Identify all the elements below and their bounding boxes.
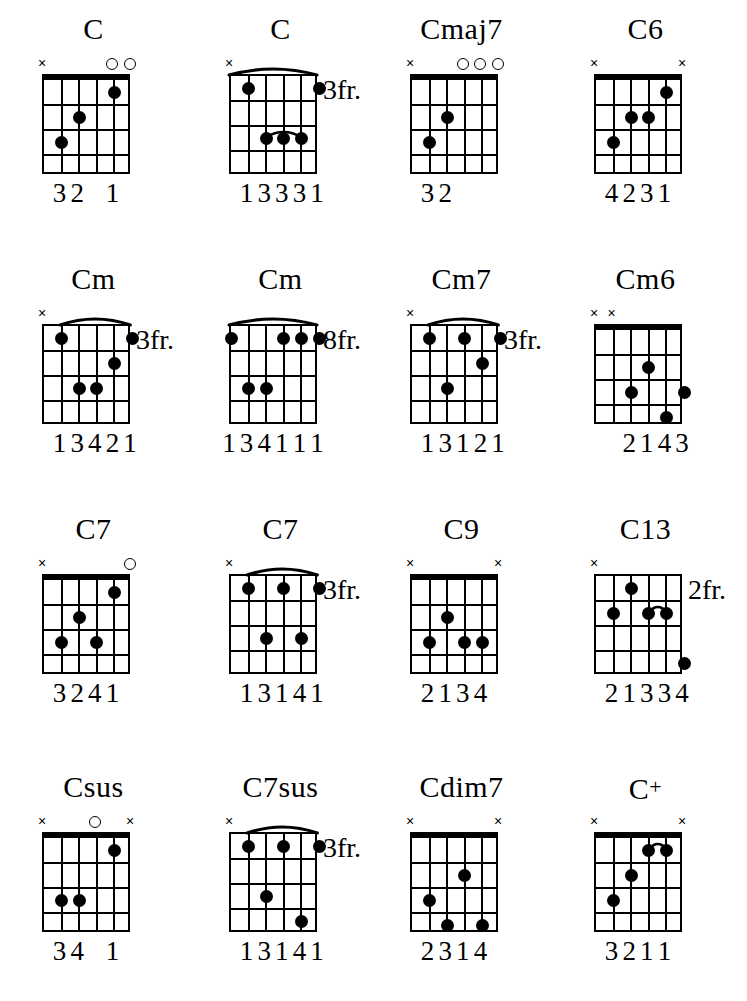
string-line (429, 580, 431, 672)
open-string-icon (106, 58, 118, 70)
muted-string-icon (587, 56, 601, 70)
fret-line (596, 887, 680, 889)
finger-dot (73, 111, 86, 124)
fret-line (596, 354, 680, 356)
string-line (96, 80, 98, 172)
finger-dot (642, 607, 655, 620)
finger-dot (607, 607, 620, 620)
fret-line (231, 400, 315, 402)
string-line (648, 330, 650, 422)
string-line (429, 838, 431, 930)
fret-grid (42, 74, 130, 174)
string-line (429, 80, 431, 172)
fret-line (596, 104, 680, 106)
fretboard-diagram: 8fr.134111 (229, 324, 317, 444)
chord-name: Cdim7 (368, 772, 555, 802)
finger-number: 2 (435, 178, 455, 208)
fret-position-label: 2fr. (688, 576, 726, 604)
finger-numbers: 4231 (594, 178, 682, 212)
chord-name: Cmaj7 (368, 14, 555, 44)
finger-number: 4 (470, 936, 490, 966)
finger-dot (242, 840, 255, 853)
finger-numbers: 3241 (42, 678, 130, 712)
string-line (481, 80, 483, 172)
finger-number: 1 (307, 936, 327, 966)
fret-line (596, 379, 680, 381)
fret-line (231, 600, 315, 602)
string-markers (410, 306, 498, 322)
open-string-icon (124, 58, 136, 70)
string-line (96, 838, 98, 930)
finger-dot (441, 919, 454, 932)
muted-string-icon (222, 556, 236, 570)
fret-line (231, 650, 315, 652)
string-line (446, 838, 448, 930)
finger-dot (625, 386, 638, 399)
fret-line (231, 625, 315, 627)
muted-string-icon (222, 56, 236, 70)
fret-line (231, 150, 315, 152)
fret-line (412, 887, 496, 889)
chord-diagram: Cm3fr.13421 (0, 264, 187, 514)
finger-dot (423, 332, 436, 345)
finger-dot (476, 357, 489, 370)
string-line (613, 80, 615, 172)
muted-string-icon (675, 814, 689, 828)
chord-name: C6 (552, 14, 739, 44)
finger-dot (423, 136, 436, 149)
fret-line (596, 912, 680, 914)
chord-name: C9 (368, 514, 555, 544)
chord-diagram: C73fr.13141 (187, 514, 374, 764)
fret-line (231, 350, 315, 352)
finger-dot (476, 636, 489, 649)
chord-name: Cm (0, 264, 187, 294)
finger-dot (458, 636, 471, 649)
finger-dot (108, 357, 121, 370)
finger-dot (90, 636, 103, 649)
finger-dot (108, 586, 121, 599)
finger-dot (441, 111, 454, 124)
finger-dot (260, 382, 273, 395)
muted-string-icon (35, 306, 49, 320)
string-line (481, 580, 483, 672)
chord-diagram: C64231 (552, 14, 739, 264)
finger-dot (441, 382, 454, 395)
finger-dot (73, 894, 86, 907)
finger-numbers: 13421 (42, 428, 130, 462)
fret-line (596, 129, 680, 131)
chord-name: C (187, 14, 374, 44)
finger-numbers: 13141 (229, 678, 317, 712)
string-markers (42, 556, 130, 572)
chord-diagram: Cm8fr.134111 (187, 264, 374, 514)
open-string-icon (457, 58, 469, 70)
muted-string-icon (675, 56, 689, 70)
finger-dot (90, 382, 103, 395)
finger-number: 1 (307, 678, 327, 708)
string-line (630, 838, 632, 930)
finger-dot (55, 894, 68, 907)
finger-dot (660, 844, 673, 857)
string-line (613, 330, 615, 422)
finger-dot (476, 919, 489, 932)
chord-name: C7 (0, 514, 187, 544)
fretboard-diagram: 2134 (410, 574, 498, 694)
fret-grid (42, 832, 130, 932)
finger-number: 1 (654, 936, 674, 966)
finger-dot (295, 332, 308, 345)
fretboard-diagram: 321 (42, 74, 130, 194)
string-markers (42, 306, 130, 322)
string-line (78, 580, 80, 672)
fret-line (231, 908, 315, 910)
finger-numbers: 2143 (594, 428, 682, 462)
fret-position-label: 3fr. (504, 326, 542, 354)
muted-string-icon (403, 306, 417, 320)
fretboard-diagram: 32 (410, 74, 498, 194)
finger-dot (423, 894, 436, 907)
muted-string-icon (587, 814, 601, 828)
fret-line (231, 100, 315, 102)
muted-string-icon (491, 814, 505, 828)
string-markers (42, 56, 130, 72)
muted-string-icon (35, 556, 49, 570)
string-markers (229, 306, 317, 322)
finger-numbers: 3211 (594, 936, 682, 970)
